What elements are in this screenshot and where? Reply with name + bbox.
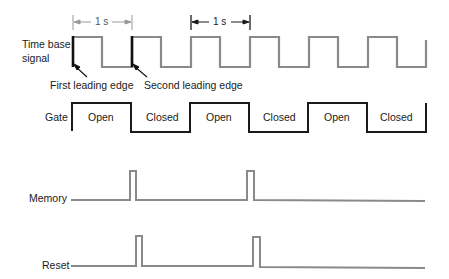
gate-phase-closed-3: Closed [380, 111, 413, 123]
gate-phase-closed-2: Closed [263, 111, 296, 123]
memory-waveform [71, 171, 425, 201]
gate-waveform [72, 103, 426, 132]
period-marker-2-label: 1 s [213, 16, 226, 27]
first-leading-edge-label: First leading edge [50, 79, 133, 91]
reset-label: Reset [42, 259, 69, 271]
gate-phase-closed-1: Closed [146, 111, 179, 123]
memory-label: Memory [29, 192, 67, 204]
gate-phase-open-3: Open [324, 111, 350, 123]
second-leading-edge-label: Second leading edge [144, 79, 243, 91]
gate-phase-open-2: Open [206, 111, 232, 123]
time-base-label-line-2: signal [22, 52, 49, 64]
gate-phase-open-1: Open [88, 111, 114, 123]
gate-label: Gate [45, 111, 68, 123]
period-marker-1-label: 1 s [95, 16, 108, 27]
time-base-waveform [73, 37, 426, 67]
time-base-label-line-1: Time base [22, 38, 71, 50]
reset-waveform [71, 236, 425, 268]
